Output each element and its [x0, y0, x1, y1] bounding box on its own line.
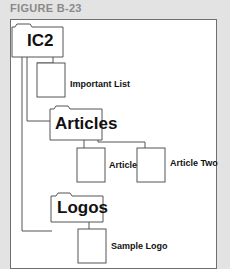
file-icon-article-two [137, 148, 165, 182]
folder-label-logos: Logos [57, 198, 108, 218]
file-label-sample-logo: Sample Logo [111, 241, 168, 251]
file-icon-sample-logo [78, 229, 106, 263]
file-icon-important-list [37, 63, 65, 97]
file-label-important-list: Important List [70, 79, 130, 89]
file-label-article-two: Article Two [170, 158, 218, 168]
folder-label-ic2: IC2 [27, 31, 53, 51]
folder-label-articles: Articles [55, 114, 117, 134]
file-label-article: Article [109, 160, 137, 170]
file-icon-article [77, 148, 105, 182]
